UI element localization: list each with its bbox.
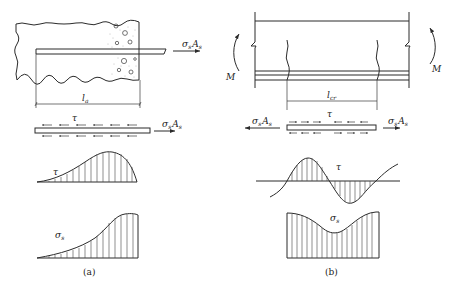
tau-label-fbd-a: τ [72,113,78,123]
length-label-lcr: lcr [327,90,337,101]
crack-left [286,40,289,80]
caption-b: (b) [325,267,338,277]
force-label-fbd-a: σsAs [162,119,182,130]
tau-label-b: τ [336,162,342,172]
length-label-la: la [82,93,89,104]
rebar-free-body [35,128,150,133]
force-label-a: σsAs [182,39,202,50]
tau-label-fbd-b: τ [327,109,333,119]
sigma-label-a: σs [55,230,64,241]
sigma-label-b: σs [330,213,339,224]
crack-right [376,40,379,80]
moment-arrow-left [234,34,239,71]
bond-stress-arrows-b [289,122,368,133]
panel-a: σsAs la τ σsAs [15,20,202,277]
bond-stress-arrows-a [42,125,137,136]
force-label-right-b: σsAs [388,116,408,127]
beam-right-end [405,12,410,88]
force-label-left-b: σsAs [252,116,272,127]
longitudinal-rebars [255,71,409,80]
sand-dots [108,27,137,78]
sigma-distribution-b: σs [287,212,379,258]
moment-arrow-right [430,28,435,64]
tau-label-a: τ [53,167,59,177]
moment-label-left: M [225,72,236,82]
panel-b: M M lcr τ σsAs [225,12,442,277]
rebar-free-body-b [287,125,376,130]
sigma-distribution-a: σs [37,214,138,258]
caption-a: (a) [83,267,95,277]
beam-left-end [251,12,256,88]
tau-distribution-a: τ [37,152,137,182]
tau-distribution-b: τ [256,158,400,203]
moment-label-right: M [431,64,442,74]
bond-stress-diagram: σsAs la τ σsAs [0,0,452,292]
rebar [36,49,166,54]
